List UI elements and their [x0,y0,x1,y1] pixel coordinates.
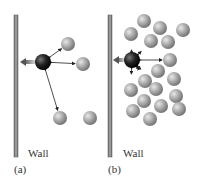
panel-a [14,15,97,157]
molecule [61,37,75,51]
molecule [124,27,138,41]
molecule [176,23,190,37]
molecule [169,89,183,103]
interaction-arrow [139,51,142,53]
force-arrow-head [20,58,26,66]
molecule [151,64,165,78]
molecule [83,111,97,125]
molecule [167,72,181,86]
interaction-arrow [138,67,140,70]
caption-a: (a) [14,163,26,175]
molecule [161,35,175,49]
molecule [53,111,67,125]
panel-b [108,14,190,157]
molecule [172,102,186,116]
molecule [144,34,158,48]
molecule [124,83,138,97]
interaction-arrow [52,62,75,63]
wall [108,15,112,157]
focus-molecule [35,54,51,70]
interaction-arrow [46,71,58,111]
force-arrow-head [113,56,119,64]
wall-label-b: Wall [123,147,144,159]
focus-molecule [124,52,140,68]
molecule [76,57,90,71]
molecule [126,104,140,118]
caption-b: (b) [108,163,121,175]
molecule [163,53,177,67]
molecule [149,82,163,96]
wall-label-a: Wall [28,147,49,159]
molecule [153,21,167,35]
molecule [154,99,168,113]
molecule [143,112,157,126]
wall [14,15,18,157]
molecule [137,94,151,108]
molecule [137,14,151,28]
interaction-arrow [50,49,61,57]
